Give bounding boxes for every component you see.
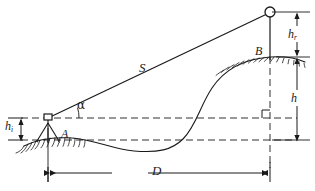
reflector-height-label: hr <box>288 28 297 42</box>
vertical-angle-label: α <box>77 99 85 111</box>
right-angle-marker-icon <box>262 110 270 118</box>
height-difference-label: h <box>291 92 297 104</box>
instrument-height-subscript: i <box>11 125 13 134</box>
slope-distance-label: S <box>139 61 146 74</box>
station-b-label: B <box>255 45 262 57</box>
survey-diagram: S α A B D h hr hi <box>0 0 315 191</box>
horizontal-distance-label: D <box>152 164 161 177</box>
ground-hatching-right-icon <box>216 57 305 75</box>
reflector-height-subscript: r <box>294 33 297 42</box>
station-a-label: A <box>61 128 68 140</box>
instrument-height-label: hi <box>5 120 13 134</box>
